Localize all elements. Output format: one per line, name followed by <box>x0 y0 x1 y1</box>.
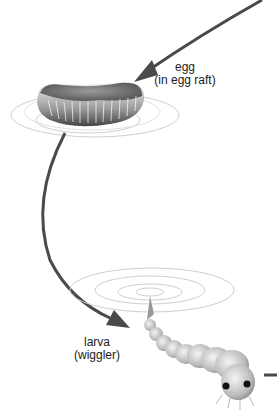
arrow-egg-to-larva <box>43 133 130 328</box>
egg-raft-illustration <box>37 82 144 126</box>
life-cycle-diagram <box>0 0 277 417</box>
larva-eye-left <box>223 383 230 390</box>
egg-stage-detail: (in egg raft) <box>145 74 225 87</box>
larva-eye-right <box>244 381 251 388</box>
larva-illustration <box>144 296 255 410</box>
larva-stage-detail: (wiggler) <box>62 349 132 362</box>
larva-label: larva (wiggler) <box>62 336 132 362</box>
egg-label: egg (in egg raft) <box>145 61 225 87</box>
